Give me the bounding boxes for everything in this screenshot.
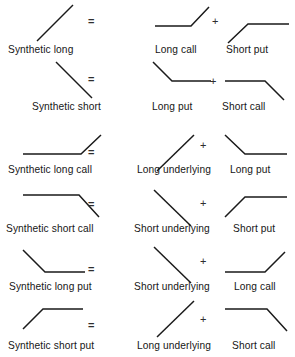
payoff-line-synthetic-long-leg-1	[227, 21, 291, 45]
payoff-line-synthetic-short-leg-1	[224, 80, 286, 102]
payoff-line-synthetic-long-put-leg-0	[153, 246, 193, 285]
operator-equals-synthetic-short: =	[88, 74, 94, 85]
caption-synthetic-short-put-result: Synthetic short put	[8, 340, 94, 351]
payoff-line-synthetic-short-call-leg-1	[224, 194, 289, 219]
operator-equals-synthetic-long-put: =	[88, 264, 94, 275]
caption-synthetic-short-put-leg-0: Long underlying	[137, 340, 211, 351]
operator-plus-synthetic-short-call: +	[200, 198, 206, 209]
payoff-line-synthetic-long-put-result	[22, 249, 87, 274]
payoff-line-synthetic-short-put-leg-0	[156, 300, 196, 339]
caption-synthetic-long-put-leg-1: Long call	[234, 281, 276, 292]
payoff-line-synthetic-long-leg-0	[154, 4, 211, 28]
payoff-line-synthetic-long-result	[34, 2, 75, 43]
synthetic-positions-figure: Synthetic long=+Long callShort putSynthe…	[0, 0, 295, 357]
caption-synthetic-long-result: Synthetic long	[8, 44, 73, 55]
caption-synthetic-short-call-leg-0: Short underlying	[134, 223, 210, 234]
operator-plus-synthetic-short-put: +	[200, 314, 206, 325]
payoff-line-synthetic-long-put-leg-1	[224, 249, 287, 274]
payoff-line-synthetic-short-put-result	[22, 306, 85, 331]
caption-synthetic-long-call-leg-1: Long put	[230, 164, 270, 175]
caption-synthetic-long-call-result: Synthetic long call	[8, 164, 92, 175]
payoff-line-synthetic-long-call-leg-1	[224, 134, 289, 156]
caption-synthetic-short-call-result: Synthetic short call	[6, 223, 94, 234]
caption-synthetic-long-leg-1: Short put	[226, 44, 268, 55]
operator-plus-synthetic-long-put: +	[200, 256, 206, 267]
caption-synthetic-long-put-leg-0: Short underlying	[134, 281, 210, 292]
caption-synthetic-short-call-leg-1: Short put	[233, 223, 275, 234]
operator-equals-synthetic-short-put: =	[88, 320, 94, 331]
operator-equals-synthetic-long-call: =	[88, 147, 94, 158]
caption-synthetic-long-call-leg-0: Long underlying	[137, 164, 211, 175]
caption-synthetic-short-put-leg-1: Short call	[232, 340, 275, 351]
caption-synthetic-short-leg-1: Short call	[222, 101, 265, 112]
operator-equals-synthetic-short-call: =	[88, 199, 94, 210]
caption-synthetic-long-put-result: Synthetic long put	[9, 281, 92, 292]
caption-synthetic-long-leg-0: Long call	[155, 44, 197, 55]
operator-plus-synthetic-long-call: +	[200, 140, 206, 151]
payoff-line-synthetic-short-put-leg-1	[224, 306, 289, 333]
caption-synthetic-short-result: Synthetic short	[32, 101, 101, 112]
operator-plus-synthetic-long: +	[212, 16, 218, 27]
payoff-line-synthetic-short-leg-0	[152, 61, 213, 83]
operator-equals-synthetic-long: =	[88, 16, 94, 27]
caption-synthetic-short-leg-0: Long put	[152, 101, 192, 112]
